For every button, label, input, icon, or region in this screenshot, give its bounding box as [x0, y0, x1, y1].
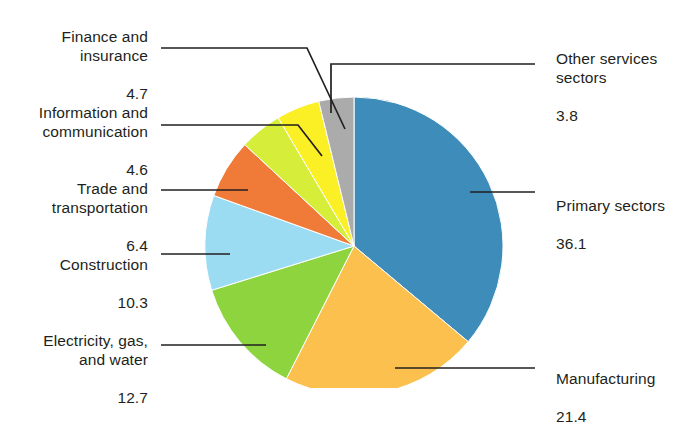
slice-label-manufacturing-value: 21.4: [556, 407, 656, 426]
slice-label-manufacturing-name: Manufacturing: [556, 369, 656, 388]
slice-label-electricity-name: Electricity, gas, and water: [43, 331, 148, 369]
slice-label-construction-name: Construction: [60, 255, 148, 274]
slice-label-information-name: Information and communication: [39, 103, 148, 141]
slice-label-primary-value: 36.1: [556, 234, 665, 253]
slice-label-electricity-value: 12.7: [43, 388, 148, 407]
slice-label-finance-name: Finance and insurance: [62, 27, 148, 65]
slice-label-construction-value: 10.3: [60, 293, 148, 312]
slice-label-primary-name: Primary sectors: [556, 196, 665, 215]
slice-label-other-services: Other services sectors 3.8: [556, 30, 657, 144]
slice-label-other-services-value: 3.8: [556, 106, 657, 125]
slice-label-trade-name: Trade and transportation: [52, 179, 148, 217]
slice-label-electricity: Electricity, gas, and water 12.7: [43, 312, 148, 426]
slice-label-other-services-name: Other services sectors: [556, 49, 657, 87]
slice-label-manufacturing: Manufacturing 21.4: [556, 350, 656, 426]
slice-label-primary: Primary sectors 36.1: [556, 177, 665, 272]
